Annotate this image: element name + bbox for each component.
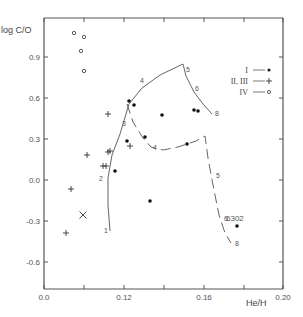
filled-circle-icon: [267, 68, 270, 71]
filled-circle-marker: [127, 99, 131, 103]
plus-marker: [84, 152, 90, 158]
track-mass-label: 8: [215, 110, 219, 117]
legend-label-I: I: [245, 66, 248, 75]
plus-icon: [266, 78, 272, 84]
filled-circle-marker: [113, 169, 117, 173]
y-tick-label: -0.3: [26, 217, 40, 226]
filled-circle-marker: [185, 142, 189, 146]
open-circle-marker: [72, 31, 75, 34]
track-mass-label: 2: [99, 175, 103, 182]
track-mass-label: 8: [235, 240, 239, 247]
x-tick-label: 0.0: [38, 293, 50, 302]
x-tick-label: 0.20: [275, 293, 291, 302]
x-tick-label: 0.16: [196, 293, 212, 302]
filled-circle-marker: [192, 108, 196, 112]
y-tick-label: -0.6: [26, 258, 40, 267]
filled-circle-marker: [235, 224, 239, 228]
y-ticks: 0.90.60.30.0-0.3-0.6: [26, 53, 48, 267]
filled-circle-marker: [143, 135, 147, 139]
open-circle-icon: [267, 90, 270, 93]
y-tick-label: 0.6: [29, 94, 41, 103]
filled-circle-marker: [125, 139, 129, 143]
track-mass-label: 4: [140, 77, 144, 84]
data-points: 6302: [63, 31, 244, 236]
filled-circle-marker: [196, 109, 200, 113]
evolution-tracks: 12345684568: [99, 64, 239, 247]
track-mass-label: 1: [104, 227, 108, 234]
filled-circle-marker: [132, 103, 136, 107]
filled-circle-marker: [160, 113, 164, 117]
plus-marker: [63, 230, 69, 236]
track-mass-label: 4: [153, 144, 157, 151]
plus-marker: [100, 163, 106, 169]
y-tick-label: 0.0: [29, 176, 41, 185]
chart-canvas: 0.00.120.160.20 0.90.60.30.0-0.3-0.6 log…: [0, 0, 303, 317]
track-mass-label: 5: [216, 172, 220, 179]
x-marker: [80, 212, 87, 219]
open-circle-marker: [82, 69, 85, 72]
x-axis-title: He/H: [246, 298, 267, 308]
x-tick-label: 0.12: [116, 293, 132, 302]
plus-marker: [68, 186, 74, 192]
legend-label-IV: IV: [240, 88, 249, 97]
open-circle-marker: [82, 35, 85, 38]
open-circle-marker: [79, 49, 82, 52]
point-label: 6302: [226, 214, 244, 223]
plus-marker: [127, 143, 133, 149]
y-tick-label: 0.3: [29, 135, 41, 144]
legend: I II, III IV: [231, 66, 272, 97]
y-tick-label: 0.9: [29, 53, 41, 62]
track-mass-label: 3: [122, 120, 126, 127]
track-mass-label: 5: [186, 66, 190, 73]
y-axis-title: log C/O: [1, 25, 32, 35]
track-mass-label: 6: [195, 85, 199, 92]
plot-frame: [44, 18, 283, 289]
plus-marker: [105, 111, 111, 117]
legend-label-II-III: II, III: [231, 77, 249, 86]
filled-circle-marker: [148, 199, 152, 203]
